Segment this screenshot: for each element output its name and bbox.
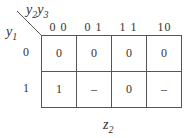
col-header-11: 1 1 xyxy=(111,20,146,35)
row-var-sub: 1 xyxy=(12,31,17,42)
col-header-00: 0 0 xyxy=(41,20,76,35)
cell-0-10: 0 xyxy=(147,36,182,72)
row-header-1: 1 xyxy=(18,81,34,96)
cell-1-10: – xyxy=(147,72,182,108)
col-var-2-sub: 3 xyxy=(43,9,48,20)
cell-1-01: – xyxy=(77,72,112,108)
output-sub: 2 xyxy=(108,124,113,135)
kmap-row-1: 1 – 0 – xyxy=(42,72,182,108)
col-header-01: 0 1 xyxy=(76,20,111,35)
output-label: z2 xyxy=(103,117,113,135)
column-variables-label: y2y3 xyxy=(26,2,48,20)
cell-1-11: 0 xyxy=(112,72,147,108)
row-header-0: 0 xyxy=(18,45,34,60)
karnaugh-map-grid: 0 0 0 0 1 – 0 – xyxy=(41,35,182,108)
col-header-10: 10 xyxy=(147,20,182,35)
kmap-row-0: 0 0 0 0 xyxy=(42,36,182,72)
cell-0-11: 0 xyxy=(112,36,147,72)
cell-1-00: 1 xyxy=(42,72,77,108)
cell-0-00: 0 xyxy=(42,36,77,72)
row-variable-label: y1 xyxy=(6,24,17,42)
cell-0-01: 0 xyxy=(77,36,112,72)
